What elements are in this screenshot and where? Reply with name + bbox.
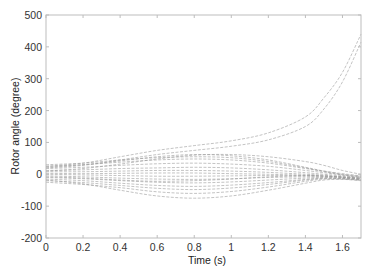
y-tick-label: 400 (24, 41, 42, 53)
y-tick-label: -100 (21, 200, 42, 212)
x-tick-label: 1.2 (261, 241, 276, 253)
x-axis-label: Time (s) (188, 254, 226, 266)
x-tick-label: 1.4 (298, 241, 313, 253)
y-axis-label: Rotor angle (degree) (9, 78, 21, 175)
x-tick-label: 0.8 (187, 241, 202, 253)
rotor-angle-chart: -200-1000100200300400500 00.20.40.60.811… (0, 0, 368, 272)
axes-box (46, 15, 361, 238)
x-tick-label: 0.6 (150, 241, 165, 253)
y-tick-label: 500 (24, 9, 42, 21)
plot-lines (46, 34, 361, 198)
x-tick-label: 0.4 (113, 241, 128, 253)
y-tick-label: 0 (36, 168, 42, 180)
y-tick-label: 100 (24, 136, 42, 148)
y-tick-label: -200 (21, 232, 42, 244)
x-tick-label: 1 (228, 241, 234, 253)
y-tick-label: 300 (24, 73, 42, 85)
y-tick-label: 200 (24, 105, 42, 117)
x-axis-ticks: 00.20.40.60.811.21.41.6 (43, 15, 350, 253)
series-line (46, 34, 361, 166)
x-tick-label: 0.2 (76, 241, 91, 253)
series-line (46, 179, 361, 198)
x-tick-label: 0 (43, 241, 49, 253)
series-line (46, 42, 361, 168)
y-axis-ticks: -200-1000100200300400500 (21, 9, 361, 244)
x-tick-label: 1.6 (335, 241, 350, 253)
